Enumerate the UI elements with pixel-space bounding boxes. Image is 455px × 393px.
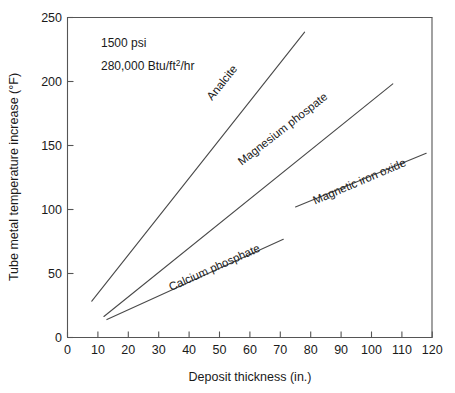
y-ticklabel-250: 250 [41,11,62,25]
series-label-calcium-phosphate: Calcium phosphate [167,242,262,293]
y-axis-ticks [68,18,74,338]
annotation-heat-flux: 280,000 Btu/ft2/hr [101,58,194,73]
x-ticklabel-10: 10 [91,343,105,357]
x-axis-title: Deposit thickness (in.) [189,370,312,384]
x-ticklabel-120: 120 [422,343,443,357]
y-ticklabel-50: 50 [48,267,62,281]
series-labels: Analcite Magnesium phospate Magnetic iro… [167,63,408,293]
x-ticklabel-20: 20 [121,343,135,357]
x-ticklabel-100: 100 [361,343,382,357]
x-ticklabel-90: 90 [334,343,348,357]
x-ticklabel-60: 60 [243,343,257,357]
x-ticklabel-0: 0 [64,343,71,357]
y-ticklabel-200: 200 [41,75,62,89]
chart-figure: 0 50 100 150 200 250 0 10 20 [0,0,455,393]
y-ticklabel-0: 0 [55,331,62,345]
x-ticklabel-80: 80 [304,343,318,357]
y-ticklabel-150: 150 [41,139,62,153]
x-ticklabel-110: 110 [392,343,412,357]
annotation-heat-flux-before: 280,000 Btu/ft [101,59,176,73]
x-ticklabel-30: 30 [152,343,166,357]
x-axis-ticks [68,332,433,338]
deposit-thickness-vs-tube-metal-temperature-chart: 0 50 100 150 200 250 0 10 20 [0,0,455,393]
annotation-pressure: 1500 psi [101,36,146,50]
y-axis-tick-labels: 0 50 100 150 200 250 [41,11,62,345]
x-axis-tick-labels: 0 10 20 30 40 50 60 70 80 90 100 110 120 [64,343,443,357]
x-ticklabel-50: 50 [213,343,227,357]
annotation-heat-flux-after: /hr [180,59,194,73]
y-axis-title: Tube metal temperature increase (°F) [7,73,21,281]
series-label-magnetic-iron-oxide: Magnetic iron oxide [311,156,407,206]
series-line-magnesium-phospate [104,84,393,317]
x-ticklabel-70: 70 [273,343,287,357]
x-ticklabel-40: 40 [182,343,196,357]
series-label-analcite: Analcite [204,63,239,102]
y-ticklabel-100: 100 [41,203,62,217]
